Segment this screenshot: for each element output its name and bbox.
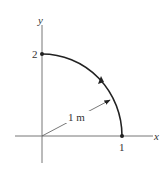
- point-1-label: 1: [119, 141, 125, 153]
- point-2-marker: [40, 52, 44, 56]
- point-2-label: 2: [32, 48, 38, 60]
- y-axis-label: y: [37, 14, 43, 26]
- diagram-canvas: y x 2 1 1 m: [0, 0, 166, 171]
- point-1-marker: [120, 134, 124, 138]
- radius-label: 1 m: [68, 111, 85, 123]
- x-axis-label: x: [153, 130, 159, 142]
- quarter-arc-path: [42, 54, 122, 136]
